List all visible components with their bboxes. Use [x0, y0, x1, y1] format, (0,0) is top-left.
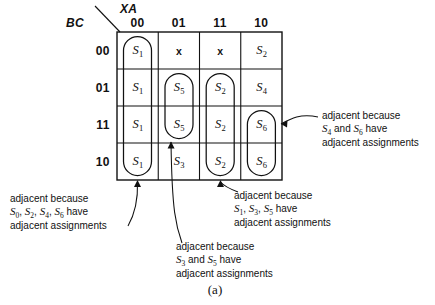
col-header-1: 01 [158, 16, 199, 30]
annotation-s3-s5-line2: S3 and S5 have [176, 253, 273, 267]
leader-line-s0s2s4s6 [128, 182, 138, 226]
row-header-3: 10 [74, 155, 110, 169]
cell-state-subscript: 3 [180, 160, 184, 170]
axis-label-bc: BC [66, 16, 84, 30]
row-header-1: 01 [74, 81, 110, 95]
col-header-2: 11 [200, 16, 241, 30]
annotation-s4-s6: adjacent because S4 and S6 have adjacent… [322, 110, 419, 149]
cell-state-subscript: 5 [180, 86, 184, 96]
kmap-cell-r0-c2[interactable]: x [200, 32, 241, 69]
cell-state-subscript: 2 [222, 160, 226, 170]
figure-caption: (a) [180, 282, 250, 298]
annotation-s1-s3-s5-line3: adjacent assignments [234, 217, 331, 229]
kmap-cell-r2-c2[interactable]: S2 [200, 106, 241, 143]
kmap-cell-r2-c1[interactable]: S5 [158, 106, 199, 143]
cell-state-subscript: 2 [263, 49, 267, 59]
kmap-cell-r1-c1[interactable]: S5 [158, 69, 199, 106]
cell-state-label: S1 [132, 80, 143, 95]
cell-state-label: S2 [256, 43, 267, 58]
row-header-0: 00 [74, 44, 110, 58]
cell-state-subscript: 1 [139, 86, 143, 96]
kmap-cell-r3-c1[interactable]: S3 [158, 143, 199, 180]
cell-state-label: S2 [215, 80, 226, 95]
cell-state-label: S6 [256, 117, 267, 132]
annotation-s3-s5-line1: adjacent because [176, 241, 273, 253]
kmap-cell-r0-c0[interactable]: S1 [117, 32, 158, 69]
kmap-cell-r3-c2[interactable]: S2 [200, 143, 241, 180]
kmap-cell-r2-c0[interactable]: S1 [117, 106, 158, 143]
annotation-s1-s3-s5-line2: S1, S3, S5 have [234, 202, 331, 216]
annotation-s4-s6-line1: adjacent because [322, 110, 419, 122]
annotation-s0-s2-s4-s6-line2: S0, S2, S4, S6 have [10, 205, 107, 219]
kmap-cell-r0-c1[interactable]: x [158, 32, 199, 69]
kmap-cell-r1-c3[interactable]: S4 [241, 69, 282, 106]
cell-state-subscript: 2 [222, 123, 226, 133]
axis-label-xa: XA [120, 2, 137, 16]
annotation-s3-s5-line3: adjacent assignments [176, 268, 273, 280]
annotation-s0-s2-s4-s6-line1: adjacent because [10, 193, 107, 205]
arrowhead-s0s2s4s6 [134, 180, 141, 187]
cell-state-label: S5 [174, 117, 185, 132]
cell-state-subscript: 6 [263, 123, 267, 133]
kmap-cell-r2-c3[interactable]: S6 [241, 106, 282, 143]
figure-root: XA BC 00 01 11 10 00 01 11 10 S1xxS2S1S5… [0, 0, 435, 305]
annotation-s0-s2-s4-s6: adjacent because S0, S2, S4, S6 have adj… [10, 193, 107, 232]
annotation-s1-s3-s5: adjacent because S1, S3, S5 have adjacen… [234, 190, 331, 229]
cell-state-label: S1 [132, 154, 143, 169]
cell-state-label: S2 [215, 117, 226, 132]
annotation-s4-s6-line3: adjacent assignments [322, 137, 419, 149]
kmap-cell-r1-c0[interactable]: S1 [117, 69, 158, 106]
kmap-cell-r3-c0[interactable]: S1 [117, 143, 158, 180]
cell-state-subscript: 4 [263, 86, 267, 96]
annotation-s0-s2-s4-s6-line3: adjacent assignments [10, 220, 107, 232]
kmap-cell-r0-c3[interactable]: S2 [241, 32, 282, 69]
cell-state-label: S3 [174, 154, 185, 169]
annotation-s4-s6-line2: S4 and S6 have [322, 122, 419, 136]
cell-state-label: S1 [132, 43, 143, 58]
annotation-s3-s5: adjacent because S3 and S5 have adjacent… [176, 241, 273, 280]
cell-state-subscript: 1 [139, 160, 143, 170]
cell-state-subscript: 1 [139, 123, 143, 133]
cell-state-label: S4 [256, 80, 267, 95]
annotation-s1-s3-s5-line1: adjacent because [234, 190, 331, 202]
cell-state-label: S5 [174, 80, 185, 95]
cell-state-subscript: 5 [180, 123, 184, 133]
cell-state-label: S1 [132, 117, 143, 132]
arrowhead-s1s3s5 [217, 180, 224, 187]
cell-state-subscript: 2 [222, 86, 226, 96]
cell-state-subscript: 1 [139, 49, 143, 59]
kmap-cell-r1-c2[interactable]: S2 [200, 69, 241, 106]
cell-state-label: S6 [256, 154, 267, 169]
cell-state-label: S2 [215, 154, 226, 169]
cell-state-subscript: 6 [263, 160, 267, 170]
col-header-3: 10 [241, 16, 282, 30]
kmap-cell-r3-c3[interactable]: S6 [241, 143, 282, 180]
row-header-2: 11 [74, 118, 110, 132]
col-header-0: 00 [117, 16, 158, 30]
